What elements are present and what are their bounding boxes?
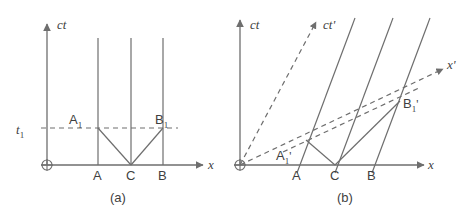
panel-b-ct-prime-axis bbox=[240, 22, 316, 165]
panel-b-ct-prime-axis-label: ct' bbox=[323, 17, 335, 33]
panel-a-x-axis-label: x bbox=[208, 157, 214, 173]
panel-b-event-label-B1-prime: B1' bbox=[403, 94, 418, 114]
panel-b-event-label-A1-prime: A1' bbox=[276, 146, 291, 166]
panel-b-light-ray-right bbox=[335, 101, 400, 165]
panel-a-graphics bbox=[41, 24, 203, 171]
panel-a-event-label-A: A bbox=[93, 168, 102, 183]
panel-a-origin-marker bbox=[41, 159, 53, 171]
panel-b-x-prime-axis-label: x' bbox=[447, 57, 456, 73]
panel-a-event-label-B1: B1 bbox=[155, 110, 168, 130]
panel-b-worldline-C bbox=[335, 18, 393, 173]
panel-b-caption: (b) bbox=[337, 190, 353, 205]
panel-b-ct-axis-label: ct bbox=[250, 17, 259, 33]
panel-a-caption: (a) bbox=[110, 190, 126, 205]
panel-a-light-ray-right bbox=[131, 128, 163, 165]
panel-a-light-ray-left bbox=[98, 128, 131, 165]
panel-a-t1-label: t1 bbox=[16, 120, 24, 140]
panel-b-worldline-B bbox=[372, 18, 430, 173]
panel-a-ct-axis-label: ct bbox=[57, 17, 66, 33]
panel-b-light-ray-left bbox=[306, 140, 335, 165]
panel-a-event-label-C: C bbox=[126, 168, 135, 183]
panel-b-event-label-C: C bbox=[330, 168, 339, 183]
panel-a-event-label-B: B bbox=[158, 168, 167, 183]
panel-a-event-label-A1: A1 bbox=[69, 110, 82, 130]
panel-b-event-label-B: B bbox=[367, 168, 376, 183]
panel-b-worldline-A bbox=[297, 18, 355, 173]
panel-b-x-axis-label: x bbox=[428, 157, 434, 173]
panel-b-x-prime-axis bbox=[240, 69, 443, 165]
panel-b-event-label-A: A bbox=[292, 168, 301, 183]
spacetime-diagram-figure: ct x t1 A1 B1 A C B (a) ct ct' x' x A1' … bbox=[0, 0, 476, 215]
